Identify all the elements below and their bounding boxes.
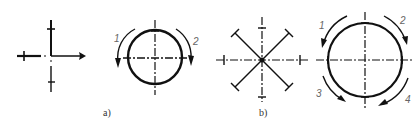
arrow-label-3: 2	[399, 15, 406, 26]
arrow-label-4: 4	[405, 94, 411, 105]
arrow-head-icon	[402, 36, 408, 45]
arrow-head-icon	[188, 55, 194, 66]
arrow-label-2: 2	[192, 36, 199, 47]
arrow-head-icon	[79, 52, 86, 60]
arrow-head-icon	[115, 58, 121, 68]
caption-a: a)	[103, 107, 111, 119]
caption-b: b)	[259, 107, 267, 119]
rotation-arrow-1	[118, 29, 135, 62]
panel-a-cross	[17, 20, 86, 92]
arrow-label-2: 3	[316, 88, 322, 99]
arrow-label-1: 1	[114, 33, 120, 44]
diagram-canvas: 1 2 a)	[0, 0, 419, 130]
arrow-head-icon	[321, 38, 327, 48]
arrow-head-icon	[337, 95, 346, 102]
arrow-head-icon	[378, 99, 388, 106]
panel-a-circle: 1 2	[114, 20, 199, 95]
panel-b-circle: 1 2 3 4	[316, 12, 413, 109]
panel-b-star	[216, 17, 308, 102]
arrow-label-1: 1	[319, 20, 325, 31]
